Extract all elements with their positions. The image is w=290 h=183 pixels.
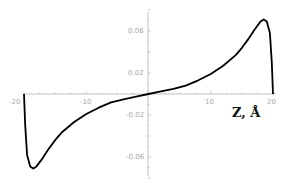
x-tick-label: -10 bbox=[80, 98, 91, 106]
y-tick-label: 0.02 bbox=[128, 69, 144, 77]
x-tick-label: -20 bbox=[9, 98, 20, 106]
x-tick-label: 10 bbox=[205, 98, 214, 106]
chart: -20 -10 10 20 0.06 0.02 -0.02 -0.06 Z, Å bbox=[0, 0, 290, 183]
x-tick-label: 20 bbox=[267, 98, 276, 106]
y-tick-label: 0.06 bbox=[128, 27, 144, 35]
y-tick-label: -0.02 bbox=[126, 111, 144, 119]
y-tick-label: -0.06 bbox=[126, 153, 145, 161]
x-axis-title: Z, Å bbox=[232, 105, 261, 120]
